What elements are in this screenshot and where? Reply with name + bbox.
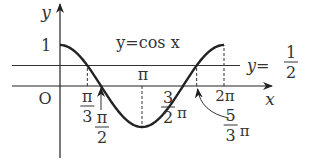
y-tick-1: 1 [41,36,51,55]
x-tick-two-pi: 2π [215,87,235,105]
x-tick-pi: π [138,65,149,84]
x-tick-three-halves-pi-pi: π [177,104,187,122]
x-tick-pi-over-2-numerator: π [97,108,108,127]
y-axis-label: y [40,2,51,22]
x-tick-three-halves-pi-numerator: 3 [163,88,173,107]
x-tick-three-halves-pi: 32π [161,88,187,127]
half-line-label-prefix: y= [246,56,269,75]
half-line-label-fraction-denominator: 2 [286,63,296,82]
x-tick-five-thirds-pi: 53π [224,106,250,145]
half-line-label-fraction-numerator: 1 [286,43,296,62]
x-tick-five-thirds-pi-numerator: 5 [226,106,236,125]
x-tick-pi-over-3-numerator: π [82,87,93,106]
x-tick-five-thirds-pi-pi: π [240,122,250,140]
x-tick-pi-over-2-denominator: 2 [97,128,107,147]
curve-label: y=cos x [115,33,179,52]
x-axis-label: x [265,89,275,109]
x-tick-three-halves-pi-denominator: 2 [163,108,173,127]
x-tick-pi-over-3: π3 [80,87,94,126]
x-tick-pi-over-2: π2 [95,108,109,147]
half-line-label-fraction: 12 [284,43,298,82]
x-tick-pi-over-3-denominator: 3 [82,107,92,126]
x-tick-five-thirds-pi-denominator: 3 [226,126,236,145]
origin-label: O [38,89,51,108]
cos-graph: yxO1y=cos xy=12π3π2π32π53π2π [0,0,309,163]
